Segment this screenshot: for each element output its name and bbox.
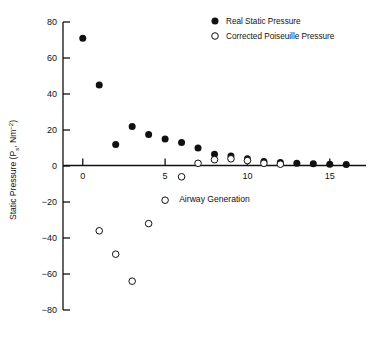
legend-label: Corrected Poiseuille Pressure bbox=[226, 32, 335, 41]
data-point-open bbox=[277, 161, 284, 168]
data-point-open bbox=[162, 197, 169, 204]
data-point-filled bbox=[145, 131, 152, 138]
data-point-open bbox=[129, 278, 136, 285]
data-point-open bbox=[178, 174, 185, 181]
x-axis-tick-label: 0 bbox=[80, 171, 85, 181]
data-point-open bbox=[195, 160, 202, 167]
data-point-filled bbox=[195, 145, 202, 152]
data-point-open bbox=[112, 251, 119, 258]
y-axis-tick-label: 20 bbox=[47, 125, 57, 135]
data-point-open bbox=[261, 160, 268, 167]
series-corrected-poiseuille-pressure bbox=[96, 156, 284, 285]
y-axis-tick-label: 60 bbox=[47, 53, 57, 63]
data-point-filled bbox=[96, 82, 103, 89]
data-point-filled bbox=[178, 139, 185, 146]
y-axis-tick-label: −60 bbox=[42, 269, 57, 279]
figure-container: 806040200−20−40−60−80051015Airway Genera… bbox=[0, 0, 380, 339]
x-axis-title: Airway Generation bbox=[179, 194, 250, 204]
data-point-filled bbox=[293, 160, 300, 167]
data-point-open bbox=[244, 157, 251, 164]
data-point-filled bbox=[326, 161, 333, 168]
legend-marker-open bbox=[212, 33, 219, 40]
y-axis-title-subscript: s bbox=[14, 148, 20, 151]
data-point-open bbox=[228, 156, 235, 163]
data-point-open bbox=[96, 228, 103, 235]
y-axis-tick-label: 0 bbox=[52, 161, 57, 171]
legend-label: Real Static Pressure bbox=[226, 17, 301, 26]
y-axis-tick-label: −20 bbox=[42, 197, 57, 207]
x-axis-tick-label: 15 bbox=[325, 171, 335, 181]
legend-marker-filled bbox=[212, 18, 219, 25]
y-axis-tick-label: −40 bbox=[42, 233, 57, 243]
y-axis-tick-label: −80 bbox=[42, 305, 57, 315]
data-point-filled bbox=[343, 161, 350, 168]
data-point-open bbox=[211, 156, 218, 163]
y-axis-tick-label: 40 bbox=[47, 89, 57, 99]
data-point-filled bbox=[112, 141, 119, 148]
data-point-filled bbox=[162, 136, 169, 143]
x-axis-tick-label: 10 bbox=[242, 171, 252, 181]
y-axis-title-exponent: −2 bbox=[8, 122, 14, 130]
y-axis-tick-label: 80 bbox=[47, 17, 57, 27]
y-axis-title: Static Pressure (Ps, Nm−2) bbox=[8, 120, 20, 220]
data-point-filled bbox=[310, 160, 317, 167]
scatter-chart: 806040200−20−40−60−80051015Airway Genera… bbox=[0, 0, 380, 339]
data-point-filled bbox=[129, 123, 136, 130]
data-point-open bbox=[145, 220, 152, 227]
series-real-static-pressure bbox=[79, 35, 349, 168]
x-axis-tick-label: 5 bbox=[163, 171, 168, 181]
y-axis-title-text: Static Pressure (Ps, Nm−2) bbox=[8, 120, 20, 220]
data-point-filled bbox=[79, 35, 86, 42]
